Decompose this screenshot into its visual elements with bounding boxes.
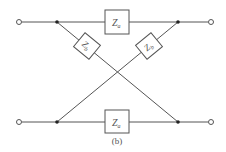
terminal-bottom-right <box>209 120 214 125</box>
impedance-bottom: Za <box>105 110 129 133</box>
impedance-diag-right: Zb <box>136 33 163 60</box>
terminal-bottom-left <box>17 120 22 125</box>
impedance-top-subscript: a <box>118 23 121 29</box>
terminal-top-right <box>209 20 214 25</box>
figure-caption: (b) <box>112 136 123 146</box>
terminal-top-left <box>17 20 22 25</box>
impedance-diag-left: Zb <box>74 33 101 60</box>
impedance-top: Za <box>105 10 129 34</box>
lattice-network-diagram: Za Za Zb Zb (b) <box>0 0 226 152</box>
junction-dot-top-right <box>176 20 180 24</box>
junction-dot-top-left <box>55 20 59 24</box>
junction-dot-bottom-right <box>176 120 180 124</box>
junction-dot-bottom-left <box>55 120 59 124</box>
impedance-bottom-subscript: a <box>118 123 121 129</box>
